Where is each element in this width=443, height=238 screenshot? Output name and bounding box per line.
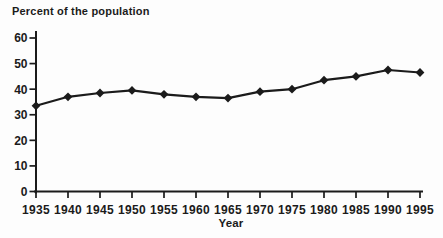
x-tick-label: 1950 bbox=[118, 203, 146, 217]
line-chart-canvas: 0102030405060193519401945195019551960196… bbox=[0, 0, 443, 238]
data-point-marker bbox=[320, 76, 329, 85]
data-point-marker bbox=[224, 94, 233, 103]
data-point-marker bbox=[96, 89, 105, 98]
y-tick-label: 30 bbox=[14, 108, 28, 122]
data-point-marker bbox=[64, 92, 73, 101]
data-point-marker bbox=[192, 92, 201, 101]
data-point-marker bbox=[384, 66, 393, 75]
x-tick-label: 1970 bbox=[246, 203, 274, 217]
x-tick-label: 1955 bbox=[150, 203, 178, 217]
x-tick-label: 1935 bbox=[22, 203, 50, 217]
x-tick-label: 1985 bbox=[342, 203, 370, 217]
y-tick-label: 0 bbox=[21, 185, 28, 199]
y-tick-label: 20 bbox=[14, 134, 28, 148]
x-tick-label: 1940 bbox=[54, 203, 82, 217]
y-tick-label: 60 bbox=[14, 31, 28, 45]
y-tick-label: 10 bbox=[14, 159, 28, 173]
x-tick-label: 1995 bbox=[406, 203, 434, 217]
x-tick-label: 1980 bbox=[310, 203, 338, 217]
data-point-marker bbox=[128, 86, 137, 95]
population-timeplot-figure: Percent of the population 01020304050601… bbox=[0, 0, 443, 238]
x-tick-label: 1960 bbox=[182, 203, 210, 217]
y-tick-label: 40 bbox=[14, 83, 28, 97]
data-point-marker bbox=[288, 85, 297, 94]
x-axis-title: Year bbox=[0, 217, 443, 229]
data-point-marker bbox=[256, 87, 265, 96]
data-point-marker bbox=[32, 101, 41, 110]
x-tick-label: 1990 bbox=[374, 203, 402, 217]
data-point-marker bbox=[416, 68, 425, 77]
data-point-marker bbox=[352, 72, 361, 81]
x-tick-label: 1965 bbox=[214, 203, 242, 217]
y-tick-label: 50 bbox=[14, 57, 28, 71]
x-tick-label: 1945 bbox=[86, 203, 114, 217]
x-tick-label: 1975 bbox=[278, 203, 306, 217]
data-point-marker bbox=[160, 90, 169, 99]
